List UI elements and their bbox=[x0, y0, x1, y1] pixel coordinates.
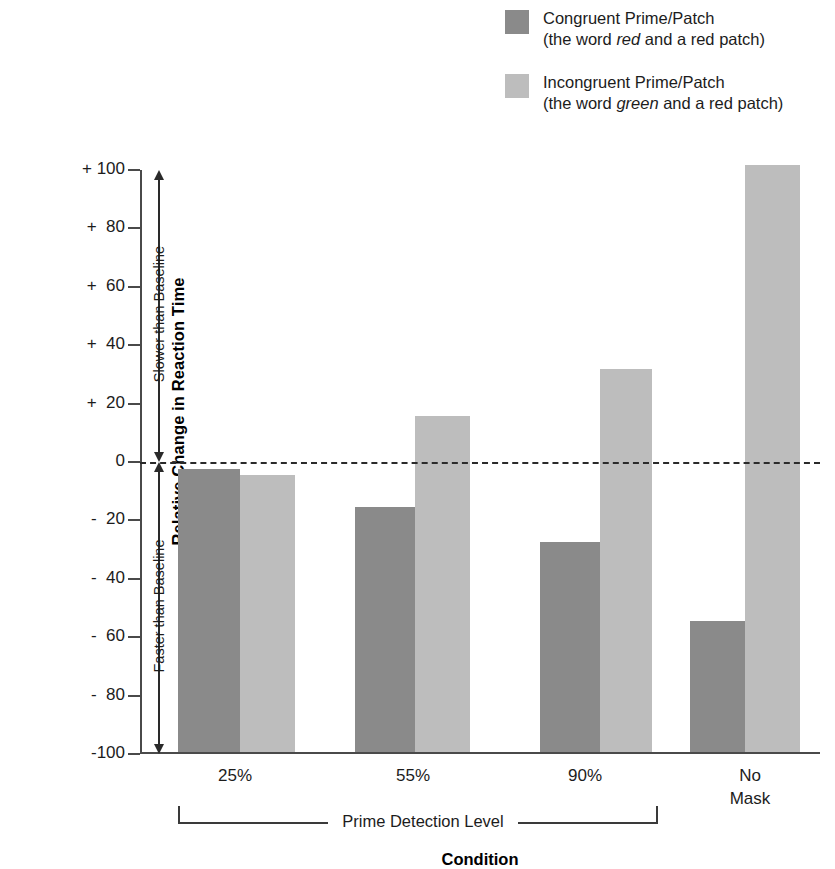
bar-no-mask-incongruent bbox=[745, 165, 800, 752]
bracket-label: Prime Detection Level bbox=[333, 812, 513, 831]
legend-item-incongruent: Incongruent Prime/Patch (the word green … bbox=[505, 72, 835, 114]
arrow-head-down-icon bbox=[154, 744, 164, 754]
bar-90--congruent bbox=[540, 542, 600, 752]
x-axis-label-90-: 90% bbox=[520, 764, 650, 787]
bar-chart-plot-area: + 100+ 80+ 60+ 40+ 200- 20- 40- 60- 80-1… bbox=[140, 170, 820, 754]
arrow-head-down-icon bbox=[154, 452, 164, 462]
bar-90--incongruent bbox=[600, 369, 652, 752]
y-axis-tick-label: - 80 bbox=[45, 685, 125, 705]
y-axis-tick bbox=[128, 344, 140, 346]
y-axis-tick-label: + 40 bbox=[45, 334, 125, 354]
chart-legend: Congruent Prime/Patch (the word red and … bbox=[505, 8, 835, 136]
x-axis-label-no-mask: NoMask bbox=[685, 764, 815, 810]
y-axis-tick bbox=[128, 403, 140, 405]
y-axis-tick bbox=[128, 286, 140, 288]
y-axis-tick-label: - 40 bbox=[45, 568, 125, 588]
bracket-left-rule bbox=[178, 822, 328, 824]
y-axis-tick-label: 0 bbox=[45, 451, 125, 471]
legend-label-incongruent-line2: (the word green and a red patch) bbox=[543, 93, 783, 114]
y-axis-tick-label: + 20 bbox=[45, 393, 125, 413]
annotation-label-faster: Faster than Baseline bbox=[151, 480, 167, 732]
annotation-label-slower: Slower than Baseline bbox=[151, 188, 167, 440]
baseline-zero-line bbox=[140, 462, 820, 464]
legend-label-incongruent: Incongruent Prime/Patch (the word green … bbox=[543, 72, 783, 114]
y-axis-tick bbox=[128, 169, 140, 171]
y-axis-tick-label: -100 bbox=[45, 743, 125, 763]
legend-label-congruent: Congruent Prime/Patch (the word red and … bbox=[543, 8, 765, 50]
legend-item-congruent: Congruent Prime/Patch (the word red and … bbox=[505, 8, 835, 50]
y-axis-tick bbox=[128, 636, 140, 638]
x-axis-label-55-: 55% bbox=[348, 764, 478, 787]
x-axis-label-25-: 25% bbox=[170, 764, 300, 787]
bracket-right-rule bbox=[518, 822, 658, 824]
bar-no-mask-congruent bbox=[690, 621, 745, 752]
legend-swatch-incongruent bbox=[505, 74, 529, 98]
y-axis-tick-label: - 60 bbox=[45, 626, 125, 646]
legend-swatch-congruent bbox=[505, 10, 529, 34]
x-axis-title: Condition bbox=[140, 850, 820, 869]
y-axis-tick-label: - 20 bbox=[45, 509, 125, 529]
y-axis-tick-label: + 80 bbox=[45, 217, 125, 237]
legend-label-congruent-line1: Congruent Prime/Patch bbox=[543, 8, 765, 29]
legend-label-incongruent-line1: Incongruent Prime/Patch bbox=[543, 72, 783, 93]
y-axis-tick bbox=[128, 519, 140, 521]
bar-55--congruent bbox=[355, 507, 415, 752]
y-axis-tick bbox=[128, 695, 140, 697]
y-axis-tick bbox=[128, 578, 140, 580]
y-axis-tick-label: + 100 bbox=[45, 159, 125, 179]
bar-25--incongruent bbox=[240, 475, 295, 752]
x-axis-line bbox=[140, 752, 820, 754]
bar-55--incongruent bbox=[415, 416, 470, 752]
y-axis-tick bbox=[128, 753, 140, 755]
y-axis-tick-label: + 60 bbox=[45, 276, 125, 296]
prime-detection-bracket: Prime Detection Level bbox=[178, 806, 658, 836]
y-axis-tick bbox=[128, 227, 140, 229]
bar-25--congruent bbox=[178, 469, 240, 752]
legend-label-congruent-line2: (the word red and a red patch) bbox=[543, 29, 765, 50]
y-axis-tick bbox=[128, 461, 140, 463]
